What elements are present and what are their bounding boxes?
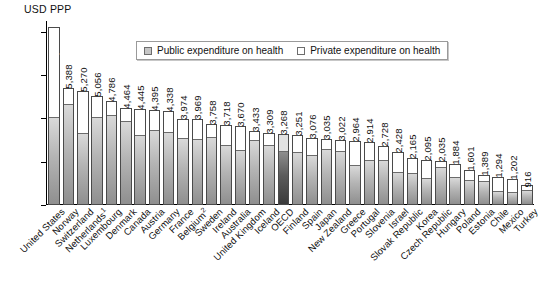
- bar-segment-public: [522, 190, 531, 204]
- bar-value-label: 5,388: [63, 61, 74, 92]
- bar-segment-public: [307, 155, 316, 204]
- bar-value-label: 3,433: [249, 104, 260, 135]
- bar-value-label: 2,914: [364, 115, 375, 146]
- bar-stack: [392, 152, 403, 205]
- legend-swatch-public-icon: [144, 47, 152, 55]
- bar-segment-public: [236, 150, 245, 204]
- bar-stack: [278, 134, 289, 205]
- bar-value-label: 2,095: [421, 133, 432, 164]
- bar-column: 5,270: [77, 21, 88, 205]
- bar-column: 1,202: [507, 21, 518, 205]
- bar-segment-public: [393, 172, 402, 204]
- bar-segment-public: [279, 151, 288, 204]
- bar-stack: [421, 160, 432, 205]
- bar-value-label: 3,022: [335, 113, 346, 144]
- y-axis-unit-label: USD PPP: [24, 3, 72, 15]
- bar-segment-public: [207, 137, 216, 204]
- bar-stack: [163, 111, 174, 205]
- bar-value-label: 1,884: [450, 137, 461, 168]
- bar-segment-public: [493, 191, 502, 204]
- bar-segment-public: [350, 165, 359, 204]
- bar-segment-public: [293, 152, 302, 204]
- bar-segment-public: [408, 173, 417, 204]
- bar-segment-private: [135, 110, 144, 137]
- bar-segment-private: [350, 142, 359, 168]
- bar-stack: [249, 131, 260, 205]
- bar-segment-private: [236, 127, 245, 152]
- bar-value-label: 1,202: [507, 152, 518, 183]
- bar-stack: [492, 177, 503, 205]
- bar-value-label: 916: [521, 169, 532, 189]
- bar-value-label: 4,445: [135, 82, 146, 113]
- bar-value-label: 3,969: [192, 92, 203, 123]
- y-axis-tick-mark: [41, 205, 46, 206]
- bar-column: 4,786: [106, 21, 117, 205]
- bar-segment-public: [365, 160, 374, 204]
- bar-column: 1,389: [478, 21, 489, 205]
- legend-item-private: Private expenditure on health: [297, 45, 440, 56]
- x-axis-label-footnote: 2: [200, 206, 208, 214]
- bar-segment-public: [422, 178, 431, 204]
- y-axis-tick-mark: [41, 118, 46, 119]
- legend-label-private: Private expenditure on health: [310, 45, 440, 56]
- bar-segment-public: [479, 181, 488, 204]
- y-axis-tick-mark: [41, 162, 46, 163]
- bar-segment-private: [164, 112, 173, 134]
- bar-segment-public: [135, 135, 144, 204]
- bar-value-label: 2,035: [435, 134, 446, 165]
- bar-segment-public: [450, 177, 459, 204]
- x-axis-label-footnote: 1: [99, 206, 107, 214]
- bar-stack: [220, 125, 231, 205]
- bar-segment-public: [221, 145, 230, 204]
- bar-stack: [464, 170, 475, 205]
- bar-segment-public: [193, 139, 202, 204]
- bar-segment-private: [150, 111, 159, 132]
- bar-value-label: 3,974: [178, 92, 189, 123]
- bar-stack: [91, 96, 102, 205]
- bar-column: 1,294: [492, 21, 503, 205]
- bar-value-label: 2,428: [392, 125, 403, 156]
- bar-value-label: 8,233: [49, 33, 60, 64]
- bar-stack: [292, 135, 303, 205]
- bar-stack: [335, 140, 346, 205]
- bar-stack: [349, 141, 360, 205]
- bar-value-label: 3,718: [221, 98, 232, 129]
- bar-value-label: 2,964: [349, 114, 360, 145]
- bar-segment-public: [107, 115, 116, 204]
- y-axis-tick-mark: [41, 75, 46, 76]
- bar-stack: [77, 91, 88, 205]
- legend-label-public: Public expenditure on health: [157, 45, 283, 56]
- bar-value-label: 3,309: [264, 106, 275, 137]
- bar-value-label: 4,786: [106, 74, 117, 105]
- bar-segment-public: [264, 145, 273, 204]
- bar-segment-public: [336, 151, 345, 205]
- bar-column: 4,464: [120, 21, 131, 205]
- bar-segment-public: [465, 180, 474, 204]
- bar-segment-private: [193, 120, 202, 141]
- bar-segment-public: [92, 117, 101, 204]
- bar-value-label: 3,251: [292, 108, 303, 139]
- bar-column: 1,601: [464, 21, 475, 205]
- bar-segment-private: [78, 92, 87, 135]
- bar-segment-public: [379, 160, 388, 204]
- bar-stack: [407, 158, 418, 205]
- legend-swatch-private-icon: [297, 47, 305, 55]
- bar-column: 5,388: [63, 21, 74, 205]
- bar-value-label: 3,076: [306, 111, 317, 142]
- bar-value-label: 5,270: [77, 64, 88, 95]
- bar-stack: [263, 133, 274, 205]
- bar-stack: [478, 175, 489, 205]
- bar-column: 1,884: [449, 21, 460, 205]
- y-axis-tick-mark: [41, 32, 46, 33]
- bar-segment-public: [150, 130, 159, 204]
- bar-segment-public: [64, 104, 73, 204]
- bar-segment-private: [393, 153, 402, 173]
- bar-stack: [306, 138, 317, 205]
- bar-value-label: 4,395: [149, 83, 160, 114]
- bar-stack: [177, 119, 188, 205]
- bar-segment-public: [164, 132, 173, 204]
- bar-stack: [106, 101, 117, 205]
- bar-value-label: 1,294: [493, 150, 504, 181]
- bar-segment-public: [322, 149, 331, 204]
- bar-stack: [63, 88, 74, 205]
